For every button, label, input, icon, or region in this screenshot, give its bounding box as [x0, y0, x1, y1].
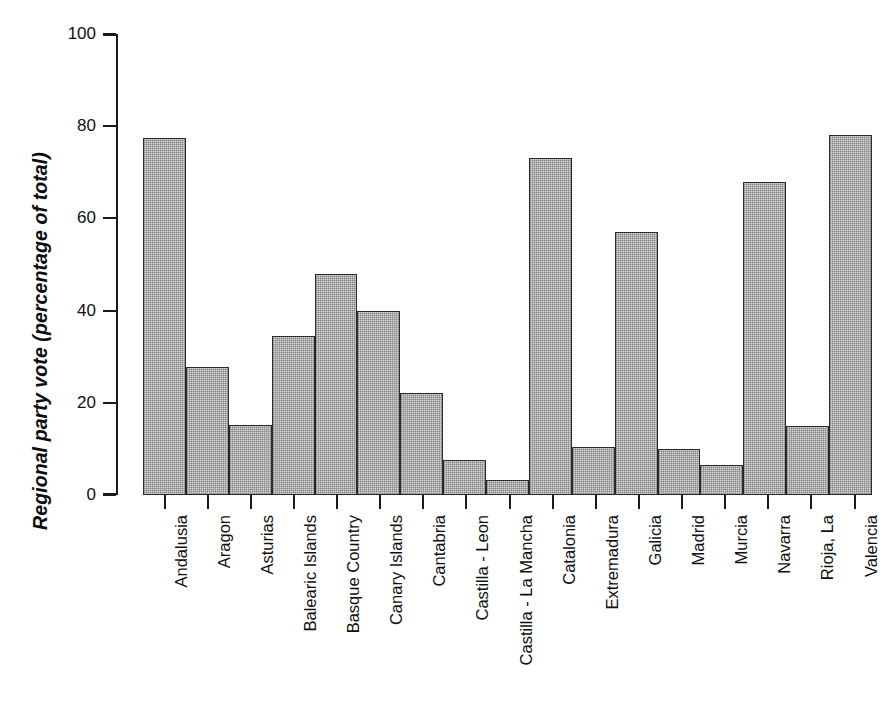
bar-series [143, 34, 872, 495]
x-axis-label-slot: Canary Islands [359, 513, 402, 713]
y-axis-tick-label: 0 [87, 485, 96, 505]
bar-chart: Regional party vote (percentage of total… [0, 0, 890, 725]
x-axis-label-slot: Rioja, La [790, 513, 833, 713]
x-axis-tick [595, 495, 597, 509]
y-axis-spine [116, 34, 118, 495]
x-tick-slot [316, 495, 359, 509]
x-axis-tick [638, 495, 640, 509]
x-axis-label-slot: Andalusia [143, 513, 186, 713]
x-axis-label-slot: Castilla - Leon [445, 513, 488, 713]
x-axis-tick [207, 495, 209, 509]
y-axis-tick-label: 60 [77, 208, 96, 228]
x-axis-tick [724, 495, 726, 509]
bar-slot [615, 34, 658, 495]
bar-slot [315, 34, 358, 495]
x-axis-label-slot: Navarra [747, 513, 790, 713]
bar [272, 336, 315, 496]
x-axis-tick [465, 495, 467, 509]
x-axis-label-slot: Extremadura [574, 513, 617, 713]
x-axis-ticks [143, 495, 876, 509]
x-tick-slot [833, 495, 876, 509]
x-tick-slot [402, 495, 445, 509]
x-tick-slot [445, 495, 488, 509]
bar-slot [229, 34, 272, 495]
x-tick-slot [531, 495, 574, 509]
bar [529, 158, 572, 495]
x-axis-label-slot: Catalonia [531, 513, 574, 713]
bar [229, 425, 272, 495]
x-tick-slot [488, 495, 531, 509]
x-axis-label-slot: Asturias [229, 513, 272, 713]
x-tick-slot [229, 495, 272, 509]
bar-slot [529, 34, 572, 495]
bar [743, 182, 786, 495]
x-axis-tick [854, 495, 856, 509]
x-tick-slot [704, 495, 747, 509]
x-axis-tick [509, 495, 511, 509]
y-axis-title: Regional party vote (percentage of total… [18, 30, 62, 530]
x-tick-slot [272, 495, 315, 509]
x-axis-tick [810, 495, 812, 509]
x-tick-slot [143, 495, 186, 509]
bar [615, 232, 658, 495]
x-axis-tick [293, 495, 295, 509]
bar [400, 393, 443, 495]
bar-slot [357, 34, 400, 495]
x-tick-slot [186, 495, 229, 509]
x-axis-tick [379, 495, 381, 509]
bar-slot [272, 34, 315, 495]
bar-slot [743, 34, 786, 495]
x-axis-label-slot: Castilla - La Mancha [488, 513, 531, 713]
x-axis-label-slot: Murcia [704, 513, 747, 713]
x-axis-label: Valencia [863, 515, 880, 577]
bar-slot [486, 34, 529, 495]
plot-area: 100806040200 [116, 30, 876, 500]
y-axis-tick: 20 [103, 402, 116, 404]
y-axis-tick-label: 40 [77, 300, 96, 320]
bar-slot [400, 34, 443, 495]
y-axis-tick: 40 [103, 310, 116, 312]
bar-slot [443, 34, 486, 495]
x-axis-labels: AndalusiaAragonAsturiasBalearic IslandsB… [143, 513, 876, 713]
x-axis-label-slot: Basque Country [316, 513, 359, 713]
bar [658, 449, 701, 495]
bar-slot [829, 34, 872, 495]
bar [143, 138, 186, 495]
x-axis-tick [552, 495, 554, 509]
bar [443, 460, 486, 495]
bar [700, 465, 743, 495]
bar [186, 367, 229, 495]
bar-slot [700, 34, 743, 495]
x-axis-tick [681, 495, 683, 509]
x-axis-label-slot: Galicia [617, 513, 660, 713]
bar-slot [658, 34, 701, 495]
x-axis-label-slot: Valencia [833, 513, 876, 713]
y-axis-tick-label: 100 [68, 24, 96, 44]
x-tick-slot [790, 495, 833, 509]
x-axis-tick [422, 495, 424, 509]
x-axis-tick [250, 495, 252, 509]
x-tick-slot [747, 495, 790, 509]
x-axis-label-slot: Madrid [661, 513, 704, 713]
bar-slot [186, 34, 229, 495]
bar-slot [572, 34, 615, 495]
x-axis-tick [336, 495, 338, 509]
bar [786, 426, 829, 495]
bar [486, 480, 529, 495]
y-axis-tick: 60 [103, 217, 116, 219]
x-tick-slot [574, 495, 617, 509]
x-axis-label-slot: Balearic Islands [272, 513, 315, 713]
bar-slot [786, 34, 829, 495]
x-axis-tick [164, 495, 166, 509]
x-axis-tick [767, 495, 769, 509]
bar-slot [143, 34, 186, 495]
bar [572, 447, 615, 495]
x-axis-label-slot: Cantabria [402, 513, 445, 713]
y-axis-tick-label: 20 [77, 392, 96, 412]
y-axis-tick: 100 [103, 33, 116, 35]
y-axis-tick: 0 [103, 494, 116, 496]
x-axis-label-slot: Aragon [186, 513, 229, 713]
x-tick-slot [359, 495, 402, 509]
bar [315, 274, 358, 495]
y-axis-tick-label: 80 [77, 116, 96, 136]
